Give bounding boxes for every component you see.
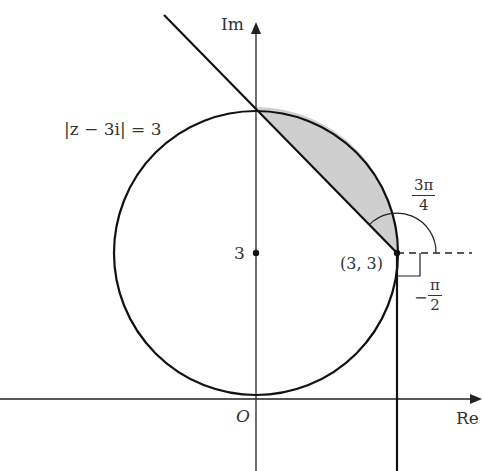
point-3-3 <box>394 250 400 256</box>
center-point <box>253 250 259 256</box>
angle-pi2-denominator: 2 <box>428 296 442 313</box>
point-label: (3, 3) <box>340 256 383 272</box>
circle-equation-label: |z − 3i| = 3 <box>64 121 162 138</box>
ray-3pi4 <box>164 15 397 253</box>
y-tick-label: 3 <box>234 245 245 262</box>
angle-pi2-numerator: π <box>428 278 442 296</box>
diagram-canvas: Im Re O |z − 3i| = 3 3 (3, 3) 3π 4 − π 2 <box>0 0 482 471</box>
im-label: Im <box>221 16 244 33</box>
diagram-svg <box>0 0 482 471</box>
angle-label-minus-pi2: π 2 <box>428 278 442 313</box>
re-axis-arrow <box>470 394 482 404</box>
angle-3pi4-numerator: 3π <box>412 178 435 196</box>
right-angle-mark <box>397 253 420 276</box>
re-label: Re <box>456 410 479 427</box>
angle-label-3pi4: 3π 4 <box>412 178 435 213</box>
angle-3pi4-denominator: 4 <box>412 196 435 213</box>
im-axis-arrow <box>251 22 261 34</box>
angle-minus-sign: − <box>414 288 427 307</box>
origin-label: O <box>236 408 250 425</box>
